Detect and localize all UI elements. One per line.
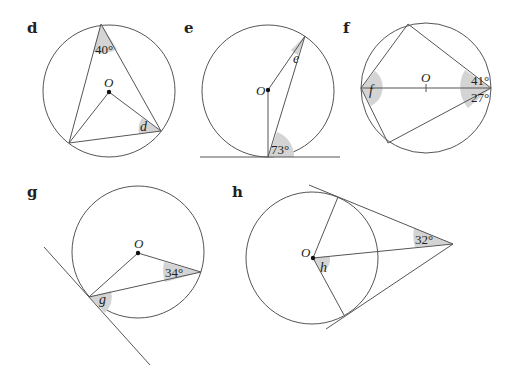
center-label-f: O (421, 70, 431, 85)
center-point-d (107, 90, 111, 94)
label-d: d (27, 19, 38, 37)
tangent-line-lower-h (326, 244, 453, 329)
angle-label-d: d (140, 119, 148, 134)
center-point-g (136, 251, 140, 255)
diagram-e: e O 73° e (184, 19, 340, 157)
angle-label-h: h (320, 260, 327, 275)
center-label-g: O (134, 236, 144, 251)
center-label-d: O (104, 75, 114, 90)
angle-label-40: 40° (95, 42, 113, 57)
label-g: g (27, 183, 38, 201)
tangent-line-g (44, 247, 150, 365)
diagram-h: h O 32° h (232, 183, 453, 329)
angle-label-27: 27° (471, 90, 489, 105)
label-f: f (343, 19, 351, 37)
diagram-g: g O 34° g (27, 183, 204, 365)
center-point-h (311, 256, 315, 260)
angle-label-34: 34° (165, 265, 183, 280)
angle-label-e: e (293, 51, 299, 66)
label-e: e (184, 19, 194, 37)
center-label-h: O (301, 245, 311, 260)
center-label-e: O (256, 83, 266, 98)
diagram-d: d O 40° d (27, 19, 175, 157)
diagram-f: f O 41° 27° f (343, 19, 491, 153)
angle-label-g: g (99, 292, 106, 307)
label-h: h (232, 183, 243, 201)
angle-label-73: 73° (271, 142, 289, 157)
center-point-e (266, 88, 270, 92)
angle-label-41: 41° (471, 73, 489, 88)
circle-theorem-diagrams: d O 40° d e O 73° e f (0, 0, 517, 371)
angle-label-32: 32° (415, 232, 433, 247)
